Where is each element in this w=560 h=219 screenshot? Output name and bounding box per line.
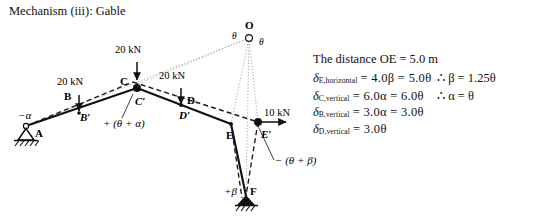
delta-subscript: D,vertical [319, 127, 350, 136]
load-label-B: 20 kN [57, 77, 83, 88]
angle-label-F: +β [224, 186, 237, 197]
point-label-Bprime: B′ [80, 112, 90, 123]
delta-subscript: B,vertical [319, 110, 350, 119]
displaced-member-CprimeEprime [133, 82, 258, 122]
support-F-hatching [236, 206, 255, 212]
joint-C-dot [133, 84, 141, 92]
load-label-E: 10 kN [264, 108, 290, 119]
point-label-Dprime: D′ [179, 110, 190, 121]
oep-construction-line [249, 38, 258, 122]
equation-body: = 6.0α = 6.0θ [353, 89, 424, 103]
support-A-hatching [15, 141, 39, 147]
figure-page: Mechanism (iii): Gable A B B′ C C′ D D′ … [0, 0, 560, 219]
notes-block: The distance OE = 5.0 m δE,horizontal = … [313, 52, 557, 137]
point-label-C: C [120, 76, 128, 87]
delta-subscript: E,horizontal [319, 76, 358, 85]
angle-label-O-right: θ [259, 38, 264, 48]
instantaneous-centre-O-marker [246, 35, 253, 42]
angle-C-leader-line [122, 94, 133, 118]
angle-label-A: −α [18, 110, 31, 121]
point-label-A: A [35, 128, 43, 139]
equation-row: δE,horizontal = 4.0β = 5.0θ ∴ β = 1.25θ [313, 70, 557, 86]
load-label-C: 20 kN [115, 45, 141, 56]
joint-Eprime-dot [254, 118, 262, 126]
equation-result: ∴ α = θ [437, 88, 474, 104]
angle-label-C: + (θ + α) [103, 118, 145, 129]
equation-body: = 3.0θ [353, 122, 387, 136]
point-label-Eprime: E′ [261, 129, 271, 140]
angle-label-O-left: θ [232, 32, 237, 42]
support-F-triangle [238, 196, 254, 205]
equation-body: = 4.0β = 5.0θ [360, 71, 431, 85]
oe-construction-line [231, 38, 249, 124]
equation-body: = 3.0α = 3.0θ [353, 105, 424, 119]
support-A-triangle [18, 129, 34, 141]
delta-subscript: C,vertical [319, 94, 350, 103]
of-construction-line [246, 38, 249, 196]
point-label-B: B [64, 91, 71, 102]
equation-row: δC,vertical = 6.0α = 6.0θ ∴ α = θ [313, 88, 557, 104]
load-label-D: 20 kN [159, 71, 185, 82]
point-label-F: F [250, 186, 257, 197]
point-label-E: E [226, 130, 233, 141]
page-title: Mechanism (iii): Gable [9, 5, 126, 18]
equation-row: δD,vertical = 3.0θ [313, 122, 557, 137]
equation-row: δB,vertical = 3.0α = 3.0θ [313, 105, 557, 120]
distance-note: The distance OE = 5.0 m [313, 52, 557, 67]
point-label-O: O [245, 20, 254, 31]
angle-label-E: − (θ + β) [275, 155, 316, 166]
support-F [235, 196, 258, 211]
point-label-Cprime: C′ [135, 96, 145, 107]
equation-result: ∴ β = 1.25θ [437, 70, 496, 86]
point-label-D: D [187, 95, 195, 106]
